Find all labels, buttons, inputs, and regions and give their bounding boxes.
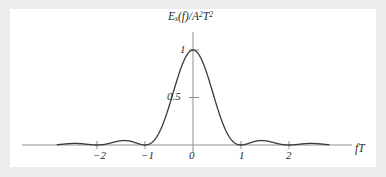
- x-axis-title: fT: [355, 143, 365, 155]
- y-axis-title: Es(f)/A2T2: [168, 11, 213, 23]
- y-axis-title-sup-T: 2: [209, 10, 213, 19]
- x-tick-label-two: 2: [286, 150, 292, 161]
- y-axis-title-E: E: [168, 10, 175, 22]
- x-tick-label-zero: 0: [189, 150, 195, 161]
- y-tick-label-0.5: 0.5: [167, 91, 181, 102]
- plot-area: [10, 9, 376, 167]
- figure-container: Es(f)/A2T2 fT 1 0.5 −2 −1 0 1 2: [0, 0, 386, 177]
- x-tick-label-minus2: −2: [93, 150, 106, 161]
- x-tick-label-one: 1: [239, 150, 245, 161]
- y-axis-title-mid: (f)/A: [178, 10, 199, 22]
- x-tick-label-minus1: −1: [141, 150, 154, 161]
- y-tick-label-1: 1: [180, 44, 186, 55]
